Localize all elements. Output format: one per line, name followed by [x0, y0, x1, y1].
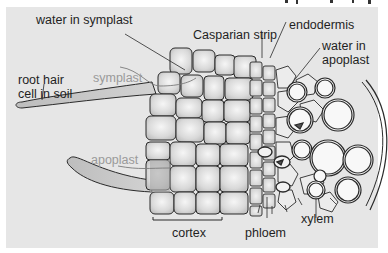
label-root-hair-1: root hair — [18, 73, 64, 87]
apoplast-pathway-band — [150, 160, 170, 192]
label-phloem: phloem — [245, 226, 286, 240]
endodermis-cells — [250, 62, 275, 216]
label-cortex: cortex — [172, 226, 206, 240]
label-water-in-apoplast-2: apoplast — [322, 53, 369, 67]
label-xylem: xylem — [301, 212, 334, 226]
label-water-in-symplast: water in symplast — [36, 13, 133, 27]
label-casparian-strip: Casparian strip — [193, 28, 277, 42]
label-symplast: symplast — [93, 71, 142, 85]
vascular-cylinder-arc — [366, 80, 387, 210]
cortex-bracket — [153, 217, 222, 220]
label-apoplast: apoplast — [91, 153, 138, 167]
xylem-vessels — [287, 78, 373, 203]
label-endodermis: endodermis — [289, 18, 354, 32]
cut-off-text-fragment — [285, 0, 371, 4]
label-root-hair-2: cell in soil — [18, 87, 72, 101]
label-water-in-apoplast-1: water in — [322, 39, 366, 53]
